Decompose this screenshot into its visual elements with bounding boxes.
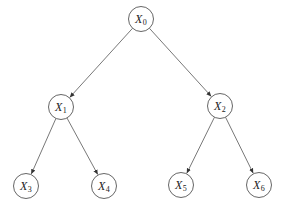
node-label-base: X — [252, 178, 261, 192]
edge-arrow-x2-x6 — [226, 117, 254, 173]
edge-arrow-x1-x3 — [31, 118, 56, 174]
node-label-subscript: 1 — [63, 106, 67, 115]
node-label-base: X — [174, 178, 183, 192]
edge-arrow-x1-x4 — [67, 118, 98, 175]
node-label-subscript: 0 — [143, 18, 147, 27]
node-label-base: X — [54, 100, 63, 114]
node-x3: X3 — [14, 174, 39, 199]
node-label-subscript: 6 — [261, 184, 265, 193]
node-label-base: X — [97, 179, 106, 193]
node-label-subscript: 2 — [222, 105, 226, 114]
node-label-subscript: 5 — [183, 184, 187, 193]
node-label-subscript: 4 — [106, 185, 110, 194]
edge-arrow-x0-x2 — [149, 28, 211, 96]
node-label-subscript: 3 — [28, 185, 32, 194]
node-label-base: X — [134, 12, 143, 26]
node-label-base: X — [19, 179, 28, 193]
node-x0: X0 — [129, 7, 154, 32]
node-x6: X6 — [247, 173, 272, 198]
tree-diagram: X0X1X2X3X4X5X6 — [0, 0, 287, 210]
node-x2: X2 — [208, 94, 233, 119]
node-label-base: X — [213, 99, 222, 113]
node-x4: X4 — [92, 174, 117, 199]
node-x1: X1 — [49, 95, 74, 120]
node-x5: X5 — [169, 173, 194, 198]
edge-arrow-x0-x1 — [70, 28, 133, 97]
edge-arrow-x2-x5 — [187, 117, 215, 173]
nodes-group: X0X1X2X3X4X5X6 — [14, 7, 272, 199]
